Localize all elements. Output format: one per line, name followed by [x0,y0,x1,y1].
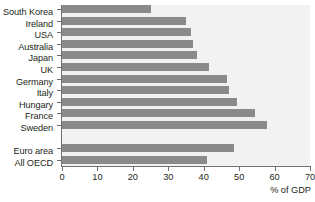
x-axis-tick [133,167,134,171]
x-axis-tick-label: 70 [295,172,315,183]
bar [62,40,193,48]
x-axis-tick-label: 10 [82,172,112,183]
bar [62,51,197,59]
y-axis-tick [57,9,61,10]
x-axis-tick-label: 30 [153,172,183,183]
category-label: USA [34,29,53,41]
x-axis-tick [97,167,98,171]
bar [62,17,186,25]
x-axis-tick [168,167,169,171]
x-axis-title: % of GDP [270,185,311,196]
y-axis-tick [57,125,61,126]
y-axis-tick [57,160,61,161]
x-axis-tick-label: 60 [260,172,290,183]
category-label: Hungary [19,99,53,111]
y-axis-tick [57,44,61,45]
y-axis-tick [57,21,61,22]
y-axis-tick [57,148,61,149]
x-axis-tick-label: 50 [224,172,254,183]
y-axis-tick [57,113,61,114]
x-axis-tick-label: 0 [47,172,77,183]
category-label: South Korea [3,6,53,18]
y-axis-tick [57,67,61,68]
category-label: All OECD [14,157,53,169]
category-label: France [25,110,53,122]
bar [62,28,191,36]
bar [62,63,209,71]
x-axis-tick [310,167,311,171]
category-axis-labels: South KoreaIrelandUSAAustraliaJapanUKGer… [0,6,57,166]
y-axis-tick [57,55,61,56]
x-axis-tick [62,167,63,171]
bar-chart: South KoreaIrelandUSAAustraliaJapanUKGer… [0,0,315,202]
y-axis-tick [57,102,61,103]
category-label: Italy [37,87,53,99]
x-axis-tick-label: 40 [189,172,219,183]
x-axis-tick [275,167,276,171]
y-axis-tick [57,79,61,80]
x-axis-tick [239,167,240,171]
bar [62,121,267,129]
x-axis-tick-label: 20 [118,172,148,183]
bar [62,86,229,94]
category-label: Sweden [20,122,53,134]
x-axis-line [61,166,311,167]
bar [62,156,207,164]
bar [62,98,237,106]
category-label: Euro area [14,145,53,157]
bar [62,5,151,13]
category-label: UK [40,64,53,76]
y-axis-tick [57,90,61,91]
x-axis-tick [204,167,205,171]
category-label: Australia [18,41,53,53]
category-label: Germany [16,76,53,88]
category-label: Japan [28,52,53,64]
category-label: Ireland [26,18,53,30]
bar [62,144,234,152]
bar [62,109,255,117]
bar [62,75,227,83]
y-axis-tick [57,32,61,33]
